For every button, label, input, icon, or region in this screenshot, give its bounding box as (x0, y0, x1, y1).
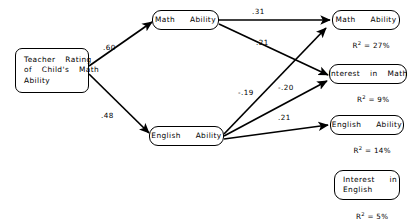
r2-value: = 14% (362, 146, 390, 155)
r2-value: = 5% (365, 212, 389, 221)
node-english-ability-outcome[interactable]: English Ability (330, 115, 404, 135)
node-math-ability-predictor-label: Math Ability (155, 15, 216, 26)
node-interest-in-math-outcome[interactable]: Interest in Math (329, 64, 407, 84)
r2-value: = 9% (366, 95, 390, 104)
edge-tr-to-math (89, 22, 152, 66)
node-english-ability-outcome-r2: R2 = 14% (330, 137, 404, 164)
node-math-ability-outcome-r2: R2 = 27% (332, 32, 400, 59)
node-interest-in-english-outcome-label: Interest in English (335, 175, 399, 196)
edge-label-english-to-englishout: .21 (278, 114, 291, 122)
node-english-ability-outcome-label: English Ability (332, 120, 402, 131)
path-diagram: Teacher Rating of Child's Math Ability M… (0, 0, 414, 221)
edge-label-math-to-mathout: .31 (252, 8, 265, 16)
edge-label-math-to-interestmath: .21 (256, 39, 269, 47)
node-math-ability-outcome[interactable]: Math Ability (332, 10, 400, 30)
node-math-ability-outcome-label: Math Ability (336, 15, 397, 26)
edge-math-to-interestmath (219, 24, 328, 75)
node-interest-in-math-outcome-label: Interest in Math (328, 69, 407, 80)
node-english-ability-predictor[interactable]: English Ability (149, 126, 224, 146)
edge-label-tr-to-english: .48 (101, 112, 114, 120)
edge-tr-to-english (89, 74, 149, 133)
edge-english-to-mathout (224, 28, 326, 134)
node-teacher-rating-label: Teacher Rating of Child's Math Ability (16, 55, 88, 87)
node-teacher-rating[interactable]: Teacher Rating of Child's Math Ability (15, 48, 89, 93)
edge-label-tr-to-math: .60 (103, 44, 116, 52)
node-english-ability-predictor-label: English Ability (151, 131, 221, 142)
edge-label-english-to-mathout: -.19 (238, 89, 254, 97)
node-interest-in-english-outcome-r2: R2 = 5% (334, 203, 400, 221)
node-math-ability-predictor[interactable]: Math Ability (152, 10, 219, 30)
edge-label-english-to-interestmath: -.20 (278, 84, 294, 92)
node-interest-in-english-outcome[interactable]: Interest in English (334, 170, 400, 200)
r2-value: = 27% (361, 41, 389, 50)
node-interest-in-math-outcome-r2: R2 = 9% (329, 86, 407, 113)
